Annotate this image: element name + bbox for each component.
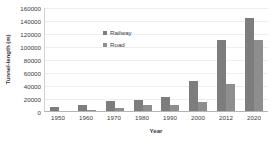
x-axis-tick-label: 1990 <box>156 114 184 126</box>
x-axis-title: Year <box>44 127 268 134</box>
y-axis-title-label: Tunnel-length (m) <box>4 34 11 84</box>
x-axis-tick-label: 1950 <box>44 114 72 126</box>
x-axis-tick-label: 1960 <box>72 114 100 126</box>
bar-group <box>73 8 101 111</box>
bar-group <box>240 8 268 111</box>
y-axis-tick-label: 160000 <box>20 5 41 12</box>
bar-group <box>184 8 212 111</box>
y-axis-tick-label: 100000 <box>20 44 41 51</box>
bar-railway-1990 <box>161 97 170 111</box>
bar-road-2000 <box>198 102 207 111</box>
bar-railway-1970 <box>106 101 115 111</box>
x-axis-tick-label: 1980 <box>128 114 156 126</box>
y-axis-tick-labels: 0200004000060000800001000001200001400001… <box>13 8 43 112</box>
bar-railway-1960 <box>78 105 87 112</box>
y-axis-tick-label: 40000 <box>24 83 41 90</box>
x-axis-tick-label: 2000 <box>184 114 212 126</box>
bar-road-1990 <box>170 105 179 111</box>
bar-road-2020 <box>254 40 263 111</box>
bar-group <box>129 8 157 111</box>
y-axis-tick-label: 140000 <box>20 18 41 25</box>
legend-swatch-icon <box>103 43 107 47</box>
y-axis-title: Tunnel-length (m) <box>0 0 14 118</box>
y-axis-tick-label: 20000 <box>24 96 41 103</box>
bar-group <box>45 8 73 111</box>
bar-road-2012 <box>226 84 235 111</box>
bar-railway-1950 <box>50 107 59 111</box>
y-axis-tick-label: 120000 <box>20 31 41 38</box>
plot-area <box>44 8 268 112</box>
bar-group <box>212 8 240 111</box>
y-axis-tick-label: 0 <box>38 109 41 116</box>
x-axis-tick-label: 1970 <box>100 114 128 126</box>
legend-label: Road <box>110 41 125 48</box>
bar-railway-2012 <box>217 40 226 112</box>
bar-road-1980 <box>143 105 152 111</box>
chart-legend: RailwayRoad <box>103 29 132 48</box>
bar-road-1970 <box>115 108 124 111</box>
bar-group <box>157 8 185 111</box>
legend-entry-railway: Railway <box>103 29 132 36</box>
y-axis-tick-label: 80000 <box>24 57 41 64</box>
bar-group <box>101 8 129 111</box>
bar-railway-2000 <box>189 81 198 111</box>
x-axis-tick-label: 2012 <box>212 114 240 126</box>
bar-chart: Tunnel-length (m) 0200004000060000800001… <box>0 0 273 152</box>
legend-label: Railway <box>110 29 132 36</box>
bar-railway-2020 <box>245 18 254 111</box>
legend-entry-road: Road <box>103 41 132 48</box>
x-axis-tick-labels: 19501960197019801990200020122020 <box>44 114 268 126</box>
bar-railway-1980 <box>134 100 143 111</box>
bar-road-1960 <box>87 110 96 111</box>
y-axis-tick-label: 60000 <box>24 70 41 77</box>
legend-swatch-icon <box>103 31 107 35</box>
bars-layer <box>45 8 268 111</box>
x-axis-tick-label: 2020 <box>240 114 268 126</box>
